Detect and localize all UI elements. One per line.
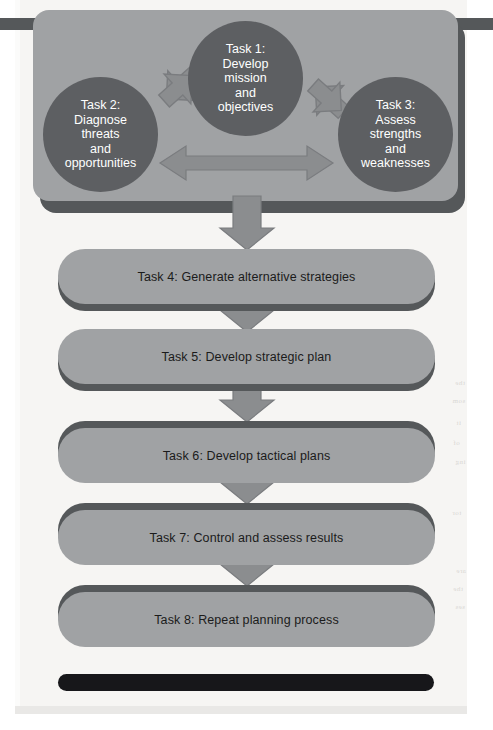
bleed-through-text-6: tor xyxy=(452,508,461,519)
bleed-through-text-2: som xyxy=(452,396,465,407)
page-bottom-shadow xyxy=(15,706,467,714)
node-task-7-body: Task 7: Control and assess results xyxy=(58,510,435,565)
bleed-through-text-5: ing xyxy=(455,457,465,468)
bottom-horizontal-rule xyxy=(58,674,434,691)
node-task-3-label: Task 3:Assessstrengthsandweaknesses xyxy=(359,98,432,171)
node-task-4-body: Task 4: Generate alternative strategies xyxy=(58,249,435,304)
node-task-7[interactable]: Task 7: Control and assess results xyxy=(58,503,435,565)
node-task-5[interactable]: Task 5: Develop strategic plan xyxy=(58,329,435,391)
bleed-through-text-3: it xyxy=(456,418,461,429)
bleed-through-text-9: ses xyxy=(455,602,465,613)
node-task-3[interactable]: Task 3:Assessstrengthsandweaknesses xyxy=(338,77,453,192)
node-task-6-label: Task 6: Develop tactical plans xyxy=(163,449,331,463)
node-task-6[interactable]: Task 6: Develop tactical plans xyxy=(58,421,435,483)
node-task-5-label: Task 5: Develop strategic plan xyxy=(162,350,332,364)
node-task-8[interactable]: Task 8: Repeat planning process xyxy=(58,585,435,647)
node-task-2-label: Task 2:Diagnosethreatsandopportunities xyxy=(63,98,139,171)
node-task-7-label: Task 7: Control and assess results xyxy=(150,531,344,545)
node-task-8-body: Task 8: Repeat planning process xyxy=(58,592,435,647)
node-task-5-body: Task 5: Develop strategic plan xyxy=(58,329,435,384)
node-task-1-label: Task 1:Developmissionandobjectives xyxy=(216,42,276,115)
node-task-2[interactable]: Task 2:Diagnosethreatsandopportunities xyxy=(43,77,158,192)
page-left-edge xyxy=(15,0,20,714)
bleed-through-text-8: the xyxy=(453,584,463,595)
node-task-1[interactable]: Task 1:Developmissionandobjectives xyxy=(188,21,303,136)
bleed-through-text-1: the xyxy=(455,378,465,389)
node-task-6-body: Task 6: Develop tactical plans xyxy=(58,428,435,483)
bleed-through-text-4: of xyxy=(453,438,460,449)
node-task-4-label: Task 4: Generate alternative strategies xyxy=(138,270,356,284)
strategic-planning-diagram: the som it of ing tor are the ses xyxy=(0,0,493,730)
node-task-4[interactable]: Task 4: Generate alternative strategies xyxy=(58,249,435,311)
node-task-8-label: Task 8: Repeat planning process xyxy=(154,613,338,627)
bleed-through-text-7: are xyxy=(456,566,466,577)
